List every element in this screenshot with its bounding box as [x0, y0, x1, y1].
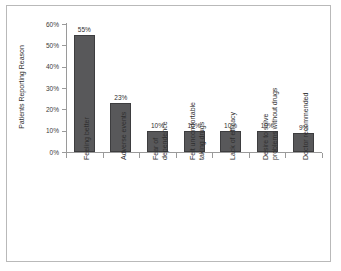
- y-axis-tick: [62, 131, 66, 132]
- x-axis-tick: [103, 153, 104, 158]
- x-axis-category-line: Fear of: [152, 121, 161, 160]
- x-axis-category-line: Feeling better: [83, 117, 92, 160]
- y-axis-line: [66, 23, 67, 153]
- x-axis-category-text: Felt uncomfortabletaking drugs: [189, 102, 206, 160]
- x-axis-category-text: Desire to solveproblems without drugs: [262, 88, 279, 160]
- x-axis-category-text: Lack of efficacy: [229, 112, 238, 160]
- y-axis-title: Patients Reporting Reason: [18, 0, 28, 28]
- x-axis-category-line: taking drugs: [197, 102, 206, 160]
- bar-value-label: 23%: [101, 94, 141, 102]
- y-axis-tick: [62, 88, 66, 89]
- x-axis-category-line: Adverse events: [120, 112, 129, 160]
- x-axis-category-line: Desire to solve: [262, 88, 271, 160]
- x-axis-tick: [176, 153, 177, 158]
- y-axis-tick: [62, 109, 66, 110]
- y-axis-tick-label: 50%: [46, 42, 59, 49]
- y-axis-tick-label: 30%: [46, 85, 59, 92]
- x-axis-category-line: problems without drugs: [270, 88, 279, 160]
- x-axis-category-text: Adverse events: [120, 112, 129, 160]
- x-axis-tick: [212, 153, 213, 158]
- x-axis-category-line: Doctor recommended: [302, 93, 311, 160]
- y-axis-tick-label: 0%: [50, 149, 59, 156]
- y-axis-tick: [62, 45, 66, 46]
- x-axis-category-line: Lack of efficacy: [229, 112, 238, 160]
- x-axis-tick: [285, 153, 286, 158]
- x-axis-tick: [249, 153, 250, 158]
- y-axis-tick-label: 20%: [46, 106, 59, 113]
- x-axis-category-text: Fear ofdependence: [152, 121, 169, 160]
- x-axis-category-text: Feeling better: [83, 117, 92, 160]
- y-axis-title-label: Patients Reporting Reason: [18, 28, 25, 146]
- x-axis-tick: [66, 153, 67, 158]
- x-axis-category-line: dependence: [160, 121, 169, 160]
- x-axis-tick: [322, 153, 323, 158]
- bar-value-label: 55%: [64, 26, 104, 34]
- x-axis-tick: [139, 153, 140, 158]
- y-axis-tick: [62, 67, 66, 68]
- chart-figure: Patients Reporting Reason 0%10%20%30%40%…: [0, 0, 341, 271]
- x-axis-category-line: Felt uncomfortable: [189, 102, 198, 160]
- y-axis-tick-label: 60%: [46, 21, 59, 28]
- y-axis-tick-label: 10%: [46, 127, 59, 134]
- y-axis-tick-label: 40%: [46, 63, 59, 70]
- x-axis-category-text: Doctor recommended: [302, 93, 311, 160]
